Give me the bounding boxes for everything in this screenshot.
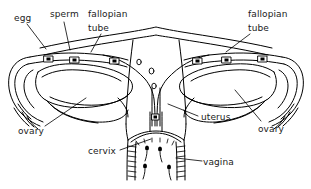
label-ovary-right: ovary <box>258 124 284 134</box>
ovary-right <box>180 64 277 108</box>
label-vagina: vagina <box>203 157 234 167</box>
label-sperm: sperm <box>50 9 79 19</box>
label-fallopian-left: fallopian <box>88 9 128 19</box>
vagina <box>127 140 185 180</box>
label-egg: egg <box>14 13 31 23</box>
fimbriae-right <box>269 57 303 129</box>
label-tube-right: tube <box>248 23 269 33</box>
fimbriae-left <box>9 57 43 129</box>
label-ovary-left: ovary <box>18 126 44 136</box>
anatomy-diagram: egg sperm fallopian tube fallopian tube … <box>0 0 311 189</box>
label-uterus: uterus <box>201 112 230 122</box>
egg-markers <box>44 56 267 120</box>
label-fallopian-right: fallopian <box>248 9 288 19</box>
uterus-body <box>40 27 272 124</box>
ovary-left <box>36 64 133 108</box>
label-cervix: cervix <box>88 146 116 156</box>
label-tube-left: tube <box>88 23 109 33</box>
sperm-markers <box>143 145 171 180</box>
